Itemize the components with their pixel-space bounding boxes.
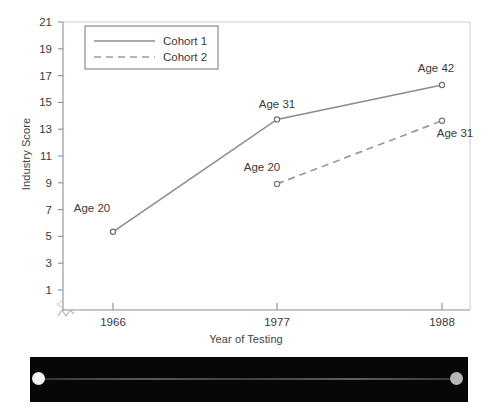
filmstrip-dot-left-icon xyxy=(32,372,45,385)
chart-plot-area: 21 19 17 15 13 11 9 7 5 3 1 xyxy=(0,0,492,352)
x-axis-ticks xyxy=(113,303,442,310)
filmstrip-dot-right-icon xyxy=(450,372,463,385)
y-tick-label: 11 xyxy=(40,150,52,162)
line-chart-svg: 21 19 17 15 13 11 9 7 5 3 1 xyxy=(0,0,492,352)
y-tick-label: 5 xyxy=(46,230,52,242)
figure: 21 19 17 15 13 11 9 7 5 3 1 xyxy=(0,0,492,413)
y-axis-ticks xyxy=(58,22,63,290)
legend-label-cohort-1: Cohort 1 xyxy=(163,35,207,47)
data-point-marker xyxy=(274,117,279,122)
x-tick-label: 1988 xyxy=(429,316,455,328)
data-point-marker xyxy=(274,181,279,186)
cohort-2-line xyxy=(277,121,442,184)
y-tick-label: 17 xyxy=(39,70,52,82)
legend-label-cohort-2: Cohort 2 xyxy=(163,51,207,63)
point-label-cohort1-1977: Age 31 xyxy=(259,98,295,110)
filmstrip-band xyxy=(30,357,468,402)
x-tick-label: 1966 xyxy=(100,316,126,328)
y-tick-label: 7 xyxy=(46,204,52,216)
legend[interactable]: Cohort 1 Cohort 2 xyxy=(85,26,218,69)
point-annotations: Age 20 Age 31 Age 42 Age 20 Age 31 xyxy=(74,62,473,214)
x-axis-title: Year of Testing xyxy=(0,333,492,345)
y-tick-label: 1 xyxy=(46,284,52,296)
point-label-cohort2-1977: Age 20 xyxy=(244,161,280,173)
point-label-cohort1-1988: Age 42 xyxy=(418,62,454,74)
data-point-marker xyxy=(110,229,115,234)
y-tick-label: 19 xyxy=(39,43,52,55)
x-axis-tick-labels: 1966 1977 1988 xyxy=(100,316,455,328)
y-axis-tick-labels: 21 19 17 15 13 11 9 7 5 3 1 xyxy=(39,16,52,296)
point-label-cohort1-1966: Age 20 xyxy=(74,202,110,214)
y-tick-label: 13 xyxy=(39,123,52,135)
filmstrip-connector-line xyxy=(38,378,458,380)
data-point-marker xyxy=(439,118,444,123)
y-tick-label: 21 xyxy=(39,16,52,28)
x-tick-label: 1977 xyxy=(264,316,290,328)
y-tick-label: 3 xyxy=(46,257,52,269)
y-axis-title: Industry Score xyxy=(20,104,32,204)
series-cohort-2 xyxy=(274,118,444,186)
axis-break-icon xyxy=(57,300,74,316)
y-tick-label: 9 xyxy=(46,177,52,189)
y-tick-label: 15 xyxy=(39,96,52,108)
point-label-cohort2-1988: Age 31 xyxy=(437,127,473,139)
data-point-marker xyxy=(439,82,444,87)
